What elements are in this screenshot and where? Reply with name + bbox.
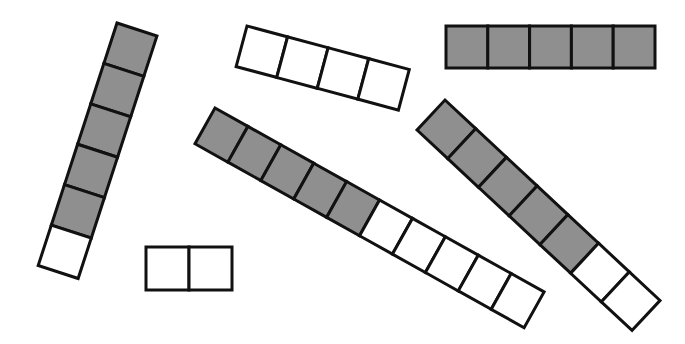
strip-f xyxy=(146,247,232,290)
shaded-cell xyxy=(530,26,572,68)
fraction-strips-canvas xyxy=(0,0,685,344)
shaded-cell xyxy=(571,26,613,68)
shaded-cell xyxy=(613,26,655,68)
unshaded-cell xyxy=(189,247,232,290)
unshaded-cell xyxy=(358,59,409,110)
shaded-cell xyxy=(446,26,488,68)
unshaded-cell xyxy=(146,247,189,290)
shaded-cell xyxy=(488,26,530,68)
strip-c xyxy=(446,26,655,68)
